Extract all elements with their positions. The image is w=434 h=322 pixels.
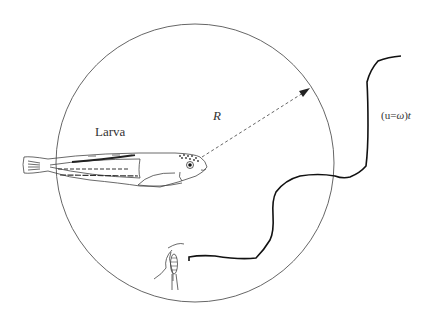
radius-label: R xyxy=(213,108,221,124)
path-label-t: t xyxy=(408,109,411,121)
copepod-icon xyxy=(154,244,184,291)
diagram-canvas: Larva R (u=ω)t xyxy=(0,0,434,322)
larva-label: Larva xyxy=(95,124,125,140)
path-label-omega: ω xyxy=(396,109,404,121)
perception-circle xyxy=(56,24,334,302)
larva-icon xyxy=(23,153,207,187)
prey-path-label: (u=ω)t xyxy=(381,109,411,121)
path-label-prefix: (u= xyxy=(381,109,396,121)
prey-path xyxy=(189,56,401,261)
